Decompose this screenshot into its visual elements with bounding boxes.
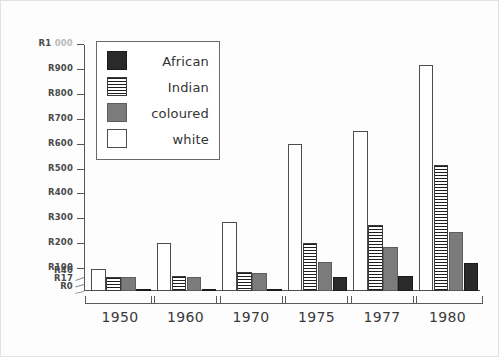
bar-white-1977 xyxy=(353,131,368,291)
y-tick-label: R1 000 xyxy=(39,38,73,48)
y-tick-mark xyxy=(77,218,84,219)
y-tick-mark xyxy=(77,94,84,95)
bar-coloured-1977 xyxy=(383,247,398,292)
chart-page: R1 000R900R800R700R600R500R400R300R200R1… xyxy=(0,0,499,357)
y-tick-label: R900 xyxy=(48,63,73,73)
y-tick-leader xyxy=(75,284,84,287)
y-tick-mark xyxy=(77,243,84,244)
bar-African-1975 xyxy=(333,277,348,291)
bar-group-1980 xyxy=(419,45,485,291)
y-tick-label: R200 xyxy=(48,237,73,247)
bar-coloured-1950 xyxy=(121,277,136,291)
bar-African-1960 xyxy=(202,289,217,291)
legend-label: white xyxy=(172,132,211,147)
y-tick-label: R300 xyxy=(48,212,73,222)
legend-label: Indian xyxy=(168,80,211,95)
bar-white-1975 xyxy=(288,144,303,291)
bar-white-1970 xyxy=(222,222,237,291)
year-bracket-1970 xyxy=(216,296,286,304)
legend-swatch-african-icon xyxy=(107,51,127,70)
y-tick-mark xyxy=(77,119,84,120)
legend-swatch-white-icon xyxy=(107,129,127,148)
bar-group-1977 xyxy=(353,45,419,291)
bar-African-1970 xyxy=(267,289,282,291)
bar-Indian-1977 xyxy=(368,225,383,291)
year-bracket-1975 xyxy=(282,296,352,304)
year-bracket-1980 xyxy=(413,296,483,304)
y-tick-mark xyxy=(77,44,84,45)
legend: AfricanIndiancolouredwhite xyxy=(96,41,220,160)
bar-coloured-1975 xyxy=(318,262,333,292)
bar-group-1970 xyxy=(222,45,288,291)
bar-coloured-1970 xyxy=(252,273,267,291)
year-bracket-1960 xyxy=(151,296,221,304)
legend-item-indian[interactable]: Indian xyxy=(105,74,211,100)
legend-item-white[interactable]: white xyxy=(105,126,211,152)
bar-white-1960 xyxy=(157,243,172,292)
bar-African-1950 xyxy=(136,289,151,291)
bar-Indian-1970 xyxy=(237,272,252,291)
legend-swatch-indian-icon xyxy=(107,77,127,96)
bar-group-1975 xyxy=(288,45,354,291)
y-tick-mark xyxy=(77,69,84,70)
bar-Indian-1975 xyxy=(303,243,318,291)
y-tick-mark xyxy=(77,144,84,145)
bar-African-1977 xyxy=(398,276,413,291)
legend-label: coloured xyxy=(151,106,211,121)
y-tick-leader xyxy=(75,291,84,294)
y-tick-leader xyxy=(75,277,84,281)
legend-swatch-coloured-icon xyxy=(107,103,127,122)
y-tick-mark xyxy=(77,193,84,194)
legend-item-coloured[interactable]: coloured xyxy=(105,100,211,126)
legend-label: African xyxy=(162,54,211,69)
legend-item-african[interactable]: African xyxy=(105,48,211,74)
year-bracket-1950 xyxy=(85,296,155,304)
x-axis-label-1980: 1980 xyxy=(405,309,491,325)
y-tick-label: R800 xyxy=(48,88,73,98)
y-tick-mark xyxy=(77,268,84,269)
bar-African-1980 xyxy=(464,263,479,291)
bar-coloured-1960 xyxy=(187,277,202,291)
y-tick-label: R600 xyxy=(48,138,73,148)
bar-white-1950 xyxy=(91,269,106,291)
bar-Indian-1980 xyxy=(434,165,449,291)
bar-Indian-1960 xyxy=(172,276,187,291)
y-tick-label: R500 xyxy=(48,163,73,173)
bar-Indian-1950 xyxy=(106,277,121,291)
y-tick-mark xyxy=(77,169,84,170)
bar-coloured-1980 xyxy=(449,232,464,292)
bar-white-1980 xyxy=(419,65,434,291)
y-tick-label: R700 xyxy=(48,113,73,123)
y-tick-label: R400 xyxy=(48,187,73,197)
y-tick-label: R0 xyxy=(60,281,73,291)
year-bracket-1977 xyxy=(347,296,417,304)
